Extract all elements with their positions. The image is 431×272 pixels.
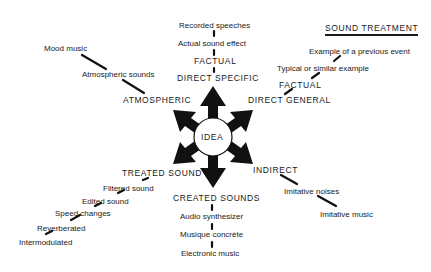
item-imitative-music: Imitative music [320, 210, 373, 219]
atmospheric-label: ATMOSPHERIC [123, 96, 191, 105]
factual-general-label: FACTUAL [279, 81, 321, 90]
item-mood-music: Mood music [44, 44, 87, 53]
item-intermodulated: Intermodulated [19, 238, 72, 247]
item-recorded-speeches: Recorded speeches [179, 21, 250, 30]
item-atmospheric-sounds: Atmospheric sounds [82, 70, 154, 79]
direct-general-label: DIRECT GENERAL [248, 96, 331, 105]
item-audio-synthesizer: Audio synthesizer [180, 212, 243, 221]
diagram-title: SOUND TREATMENT [325, 24, 418, 36]
direct-specific-label: DIRECT SPECIFIC [177, 74, 259, 83]
treated-sound-label: TREATED SOUND [122, 169, 202, 178]
item-example-previous-event: Example of a previous event [309, 47, 410, 56]
item-typical-similar-example: Typical or similar example [277, 64, 369, 73]
center-idea-label: IDEA [201, 133, 223, 142]
item-actual-sound-effect: Actual sound effect [178, 39, 246, 48]
factual-specific-label: FACTUAL [194, 57, 236, 66]
item-reverberated: Reverberated [37, 224, 85, 233]
item-electronic-music: Electronic music [181, 249, 239, 258]
item-filtered-sound: Filtered sound [103, 184, 154, 193]
item-speed-changes: Speed changes [55, 209, 111, 218]
item-musique-concrete: Musique concrète [180, 230, 243, 239]
indirect-label: INDIRECT [253, 166, 298, 175]
item-edited-sound: Edited sound [82, 197, 129, 206]
created-sounds-label: CREATED SOUNDS [173, 194, 260, 203]
item-imitative-noises: Imitative noises [284, 187, 339, 196]
